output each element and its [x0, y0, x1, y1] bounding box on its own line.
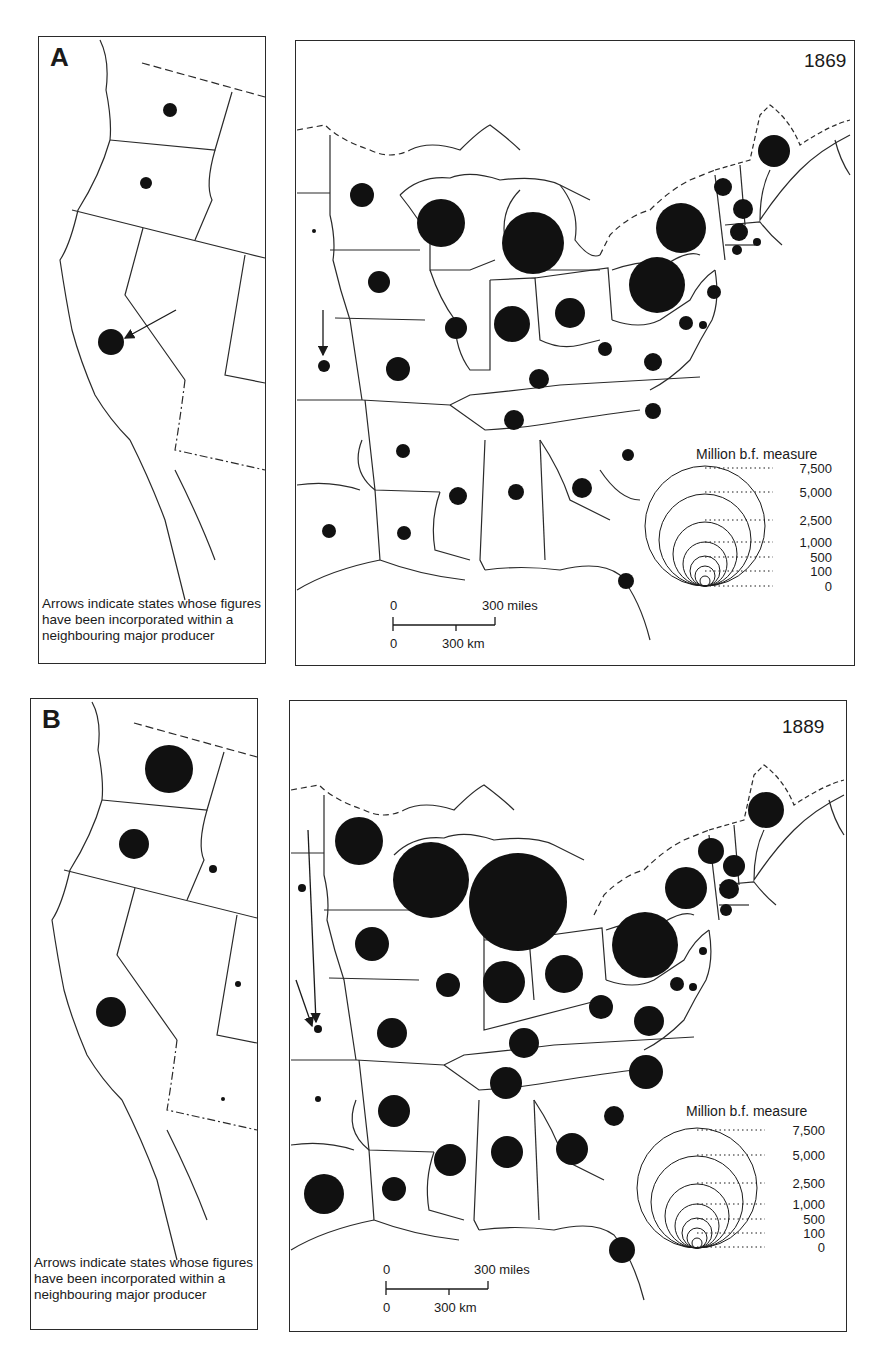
state-circle-de [699, 321, 707, 329]
state-circle-ms [449, 487, 467, 505]
legend-circle [651, 1156, 743, 1248]
legend-circle [683, 542, 727, 586]
state-circle-me [758, 135, 790, 167]
scale-b-km-label: 300 km [434, 1300, 477, 1315]
state-circle-il [445, 317, 467, 339]
legend-circle [637, 1128, 757, 1248]
state-circle-md [670, 977, 684, 991]
state-circle-mn [350, 183, 374, 207]
state-circle-de [689, 983, 697, 991]
state-circle-la [382, 1177, 406, 1201]
panel-b-year: 1889 [782, 716, 824, 738]
state-circle-ca [98, 329, 124, 355]
arrow-icon [308, 830, 316, 1022]
state-circle-wi [393, 842, 469, 918]
state-circle-vt [698, 838, 724, 864]
state-circle-wv [589, 995, 613, 1019]
state-circle-dk [312, 229, 316, 233]
state-circle-mn [335, 817, 383, 865]
panel-b-letter: B [42, 704, 61, 735]
state-circle-ia [355, 927, 389, 961]
state-circle-va [634, 1006, 664, 1036]
state-circle-va [644, 353, 662, 371]
state-circle-ne [318, 360, 330, 372]
scale-a-km-zero: 0 [390, 636, 397, 651]
state-circle-ma [730, 223, 748, 241]
state-circle-ar [396, 444, 410, 458]
state-circle-tn [504, 410, 524, 430]
state-circle-fl [618, 573, 634, 589]
state-circle-in [494, 306, 530, 342]
state-circle-ga [556, 1133, 588, 1165]
legend-circle [675, 1204, 719, 1248]
state-circle-tn [490, 1067, 522, 1099]
state-circle-az [221, 1097, 225, 1101]
legend-label-7500: 7,500 [772, 461, 832, 476]
state-circle-id [209, 865, 217, 873]
state-circle-wa [163, 103, 177, 117]
legend-label-7500: 7,500 [765, 1123, 825, 1138]
state-circle-ms [434, 1144, 466, 1176]
state-circle-wv [598, 342, 612, 356]
state-circle-mi [469, 853, 567, 951]
legend-label-500: 500 [772, 550, 832, 565]
state-circle-ga [572, 478, 592, 498]
legend-circle [659, 494, 751, 586]
state-circle-oh [545, 955, 583, 993]
state-circle-nh [733, 199, 753, 219]
state-circle-ks [315, 1096, 321, 1102]
state-circle-ne [314, 1025, 322, 1033]
state-circle-sc [604, 1106, 624, 1126]
state-circle-ma [719, 879, 739, 899]
state-circle-ar [378, 1095, 410, 1127]
state-circle-vt [714, 178, 732, 196]
state-circle-ct [732, 245, 742, 255]
legend-label-2500: 2,500 [772, 513, 832, 528]
production-circles [96, 103, 790, 1263]
panel-a-note: Arrows indicate states whose figures hav… [42, 596, 272, 644]
state-circle-md [679, 316, 693, 330]
state-circle-dk [298, 884, 306, 892]
state-circle-ky [529, 369, 549, 389]
state-circle-ny [665, 867, 707, 909]
state-circle-nh [723, 855, 745, 877]
state-circle-mi [502, 212, 564, 274]
state-circle-oh [555, 298, 585, 328]
legend-label-2500: 2,500 [765, 1176, 825, 1191]
state-circle-wa [145, 745, 193, 793]
state-circle-or [140, 177, 152, 189]
state-circle-fl [609, 1237, 635, 1263]
map-canvas [0, 0, 884, 1358]
arrow-icon [296, 980, 312, 1026]
state-circle-ct [720, 904, 732, 916]
legend-label-100: 100 [765, 1226, 825, 1241]
legend-label-100: 100 [772, 564, 832, 579]
legend-circle [700, 576, 710, 586]
state-circle-nc [629, 1055, 663, 1089]
panel-a-legend-title: Million b.f. measure [696, 446, 817, 462]
state-circle-la [397, 526, 411, 540]
state-circle-pa [629, 257, 685, 313]
state-circle-ut [235, 981, 241, 987]
scale-b-miles-zero: 0 [383, 1262, 390, 1277]
state-circle-pa [612, 912, 678, 978]
scale-a-miles-label: 300 miles [482, 598, 538, 613]
panel-a-letter: A [50, 42, 69, 73]
state-circle-ky [509, 1028, 539, 1058]
state-circle-mo [377, 1018, 407, 1048]
state-circle-al [508, 484, 524, 500]
state-circle-mo [386, 357, 410, 381]
state-circle-nc [645, 403, 661, 419]
state-circle-sc [622, 449, 634, 461]
panel-a-year: 1869 [804, 50, 846, 72]
state-circle-tx [304, 1174, 344, 1214]
legend-label-5000: 5,000 [765, 1148, 825, 1163]
state-circle-ny [656, 203, 706, 253]
state-circle-ri [753, 238, 761, 246]
legend-label-0: 0 [772, 579, 832, 594]
legend-label-1000: 1,000 [772, 535, 832, 550]
legend-circle [645, 466, 765, 586]
scale-b-km-zero: 0 [383, 1300, 390, 1315]
scale-a-km-label: 300 km [442, 636, 485, 651]
legend-label-500: 500 [765, 1212, 825, 1227]
